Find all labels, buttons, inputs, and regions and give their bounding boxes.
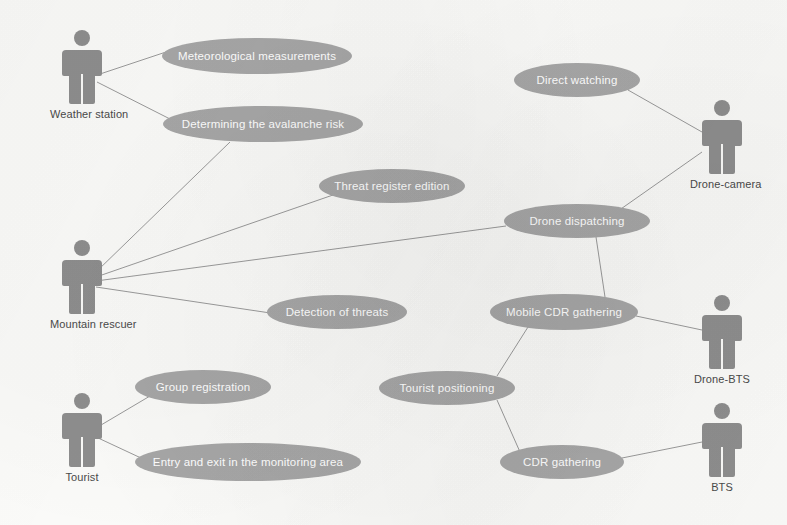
actor-figure-icon <box>50 30 114 104</box>
use-case-mobile-cdr-gathering[interactable]: Mobile CDR gathering <box>490 294 638 330</box>
actor-label: Mountain rescuer <box>50 318 114 330</box>
use-case-entry-and-exit-in-the-monitoring-area[interactable]: Entry and exit in the monitoring area <box>135 443 361 481</box>
use-case-label: Drone dispatching <box>529 215 624 227</box>
use-case-label: Determining the avalanche risk <box>182 118 344 130</box>
use-case-label: CDR gathering <box>523 456 601 468</box>
actor-tourist[interactable]: Tourist <box>50 393 114 483</box>
actor-figure-icon <box>50 393 114 467</box>
actor-label: Drone-camera <box>690 178 754 190</box>
actor-head-icon <box>74 240 90 256</box>
actor-figure-icon <box>690 100 754 174</box>
connector-layer <box>0 0 787 525</box>
use-case-diagram-canvas: Weather stationMountain rescuerTouristDr… <box>0 0 787 525</box>
actor-head-icon <box>714 403 730 419</box>
use-case-drone-dispatching[interactable]: Drone dispatching <box>504 204 650 238</box>
actor-mountain-rescuer[interactable]: Mountain rescuer <box>50 240 114 330</box>
association-line <box>96 226 506 281</box>
use-case-tourist-positioning[interactable]: Tourist positioning <box>379 371 515 405</box>
actor-body-icon <box>702 423 742 449</box>
use-case-label: Detection of threats <box>286 306 389 318</box>
use-case-detection-of-threats[interactable]: Detection of threats <box>267 295 407 329</box>
actor-legs-icon <box>69 74 95 104</box>
use-case-cdr-gathering[interactable]: CDR gathering <box>500 445 624 479</box>
use-case-direct-watching[interactable]: Direct watching <box>514 63 640 97</box>
actor-label: Weather station <box>50 108 114 120</box>
actor-label: Drone-BTS <box>690 373 754 385</box>
use-case-label: Entry and exit in the monitoring area <box>153 456 343 468</box>
actor-head-icon <box>714 295 730 311</box>
actor-weather-station[interactable]: Weather station <box>50 30 114 120</box>
actor-legs-icon <box>709 447 735 477</box>
use-case-meteorological-measurements[interactable]: Meteorological measurements <box>162 38 352 74</box>
use-case-threat-register-edition[interactable]: Threat register edition <box>319 169 465 203</box>
association-line <box>96 287 277 314</box>
actor-label: Tourist <box>50 471 114 483</box>
association-line <box>497 400 520 452</box>
actor-legs-icon <box>69 284 95 314</box>
actor-body-icon <box>62 50 102 76</box>
actor-drone-bts[interactable]: Drone-BTS <box>690 295 754 385</box>
actor-legs-icon <box>709 144 735 174</box>
actor-figure-icon <box>690 295 754 369</box>
actor-legs-icon <box>69 437 95 467</box>
actor-figure-icon <box>50 240 114 314</box>
use-case-label: Direct watching <box>537 74 618 86</box>
actor-label: BTS <box>690 481 754 493</box>
association-line <box>596 237 605 297</box>
use-case-label: Mobile CDR gathering <box>506 306 622 318</box>
actor-head-icon <box>714 100 730 116</box>
actor-body-icon <box>702 120 742 146</box>
actor-head-icon <box>74 393 90 409</box>
actor-bts[interactable]: BTS <box>690 403 754 493</box>
actor-body-icon <box>62 413 102 439</box>
actor-legs-icon <box>709 339 735 369</box>
association-line <box>497 327 528 376</box>
use-case-determining-the-avalanche-risk[interactable]: Determining the avalanche risk <box>163 106 363 142</box>
actor-body-icon <box>62 260 102 286</box>
actor-figure-icon <box>690 403 754 477</box>
use-case-label: Meteorological measurements <box>178 50 336 62</box>
use-case-label: Group registration <box>156 381 251 393</box>
actor-drone-camera[interactable]: Drone-camera <box>690 100 754 190</box>
use-case-label: Threat register edition <box>334 180 449 192</box>
use-case-label: Tourist positioning <box>400 382 495 394</box>
actor-body-icon <box>702 315 742 341</box>
actor-head-icon <box>74 30 90 46</box>
association-line <box>96 142 230 272</box>
use-case-group-registration[interactable]: Group registration <box>135 370 271 404</box>
